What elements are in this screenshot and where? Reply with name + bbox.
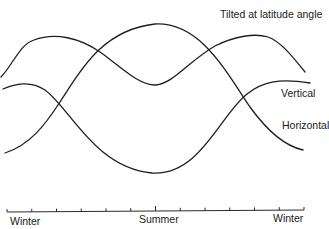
x-tick-label-winter-start: Winter [10, 216, 40, 227]
horizontal-label: Horizontal [282, 120, 329, 131]
x-axis [7, 206, 304, 212]
tilted-curve [1, 35, 305, 85]
x-tick-label-summer: Summer [139, 214, 179, 225]
tilted-label: Tilted at latitude angle [220, 9, 322, 20]
horizontal-curve [5, 24, 303, 153]
vertical-curve [3, 81, 310, 173]
vertical-label: Vertical [281, 88, 315, 99]
x-tick-label-winter-end: Winter [273, 213, 303, 224]
chart-canvas [0, 0, 329, 229]
